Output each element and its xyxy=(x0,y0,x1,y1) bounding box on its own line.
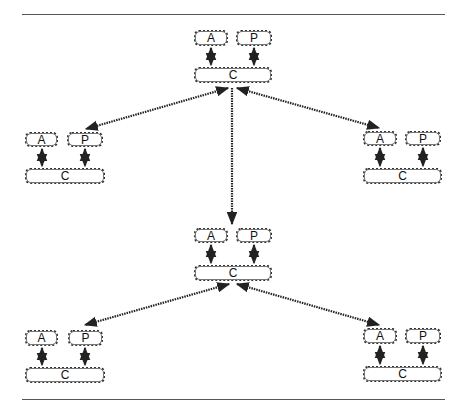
top-p-node: P xyxy=(236,30,272,46)
bottom-left-c-node: C xyxy=(25,367,105,383)
bottom-right-p-node: P xyxy=(405,328,441,344)
left-c-node: C xyxy=(25,168,105,184)
top-a-node: A xyxy=(194,30,228,46)
top-c-node: C xyxy=(194,67,272,83)
middle-a-node: A xyxy=(194,228,228,243)
bottom-right-c-node: C xyxy=(363,366,442,382)
right-p-node: P xyxy=(405,131,441,146)
edge-top-left xyxy=(86,88,228,129)
middle-p-node: P xyxy=(236,228,272,243)
bottom-left-p-node: P xyxy=(68,330,103,346)
edge-middle-bottom-right xyxy=(237,284,379,325)
bottom-right-a-node: A xyxy=(363,328,397,344)
connectors xyxy=(0,0,467,407)
edge-middle-bottom-left xyxy=(85,284,229,325)
left-p-node: P xyxy=(67,132,103,147)
bottom-left-a-node: A xyxy=(25,330,58,346)
left-a-node: A xyxy=(25,132,58,147)
middle-c-node: C xyxy=(194,265,272,281)
right-c-node: C xyxy=(363,168,442,184)
edge-top-right xyxy=(237,88,379,128)
right-a-node: A xyxy=(363,131,397,146)
